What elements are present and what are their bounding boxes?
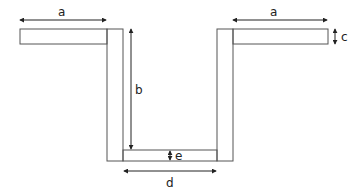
channel-shape [20, 29, 328, 161]
right-wall [217, 29, 233, 161]
channel-diagram: a a b c e d [0, 0, 363, 192]
label-a-left: a [58, 5, 65, 19]
label-d: d [166, 176, 174, 190]
right-flange [233, 29, 328, 44]
label-a-right: a [270, 5, 277, 19]
label-e: e [175, 149, 182, 163]
left-wall [107, 29, 123, 161]
label-b: b [135, 83, 143, 97]
left-flange [20, 29, 107, 44]
label-c: c [341, 30, 348, 44]
